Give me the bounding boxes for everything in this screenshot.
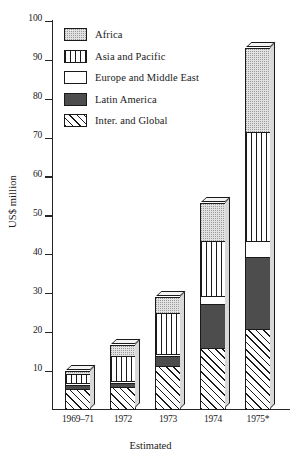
bar-segment[interactable] [111,357,135,382]
x-axis-tick-label: 1975* [233,414,283,424]
chart-legend: AfricaAsia and PacificEurope and Middle … [64,24,274,132]
bar-segment[interactable] [111,388,135,409]
swatch-white-icon [64,71,87,84]
legend-item[interactable]: Inter. and Global [64,110,274,132]
y-axis-tick-label: 90 [33,52,42,62]
x-axis-tick-label: 1972 [98,414,148,424]
bar-stack[interactable] [110,345,136,409]
bar-segment[interactable] [156,357,180,367]
y-axis-tick-label: 70 [33,130,42,140]
x-axis-tick-label: 1974 [188,414,238,424]
x-axis-caption: Estimated [0,440,301,451]
y-axis-tick: 30 [45,293,53,294]
bar-segment[interactable] [201,297,225,305]
legend-item[interactable]: Latin America [64,89,274,111]
bar-segment[interactable] [246,258,270,330]
y-axis-tick: 20 [45,332,53,333]
legend-item-label: Asia and Pacific [95,51,165,62]
bar-top-face [66,365,96,370]
stacked-bar-chart: US$ million 102030405060708090100 1969–7… [0,0,301,466]
y-axis-tick: 70 [45,138,53,139]
legend-item-label: Europe and Middle East [95,72,199,83]
bar-segment[interactable] [111,345,135,357]
y-axis-tick-label: 30 [33,286,42,296]
bar-stack[interactable] [155,297,181,410]
y-axis-label: US$ million [7,157,18,247]
y-axis-tick: 40 [45,254,53,255]
swatch-solid-dark-icon [64,93,87,106]
y-axis-tick-label: 40 [33,247,42,257]
legend-item[interactable]: Africa [64,24,274,46]
bar-segment[interactable] [201,242,225,296]
legend-item[interactable]: Asia and Pacific [64,46,274,68]
legend-item[interactable]: Europe and Middle East [64,67,274,89]
y-axis-tick-label: 100 [28,13,42,23]
bar-side-face [180,291,185,409]
legend-item-label: Latin America [95,94,157,105]
bar-segment[interactable] [201,203,225,242]
bar-segment[interactable] [156,297,180,315]
bar-segment[interactable] [156,314,180,355]
swatch-stipple-icon [64,28,87,41]
bar-side-face [90,365,95,409]
bar-side-face [135,339,140,408]
y-axis-tick: 100 [45,21,53,22]
legend-item-label: Inter. and Global [95,115,168,126]
y-axis-tick: 80 [45,99,53,100]
bar-segment[interactable] [201,349,225,409]
bar-segment[interactable] [156,367,180,410]
x-axis-tick-label: 1973 [143,414,193,424]
bar-segment[interactable] [246,330,270,410]
bar-stack[interactable] [65,371,91,410]
bar-side-face [225,197,230,408]
y-axis-tick-label: 50 [33,208,42,218]
bar-segment[interactable] [201,305,225,350]
swatch-vertical-lines-icon [64,50,87,63]
legend-item-label: Africa [95,29,122,40]
y-axis-tick-label: 10 [33,363,42,373]
bar-stack[interactable] [200,203,226,409]
y-axis-tick-label: 20 [33,325,42,335]
y-axis-tick: 60 [45,176,53,177]
y-axis-tick: 10 [45,371,53,372]
x-axis-tick-label: 1969–71 [53,414,103,424]
y-axis-tick: 50 [45,215,53,216]
y-axis-tick: 90 [45,60,53,61]
bar-segment[interactable] [246,133,270,242]
bar-segment[interactable] [66,390,90,409]
y-axis-tick-label: 80 [33,91,42,101]
bar-segment[interactable] [66,375,90,385]
bar-segment[interactable] [246,242,270,258]
swatch-diagonal-hatch-icon [64,114,87,127]
y-axis-tick-label: 60 [33,169,42,179]
